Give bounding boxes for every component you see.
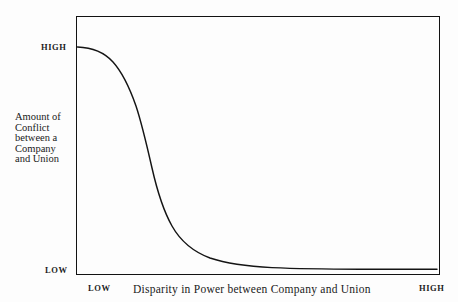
plot-frame [76, 16, 440, 275]
x-axis-title: Disparity in Power between Company and U… [133, 283, 371, 295]
y-axis-tick-low: LOW [45, 265, 67, 275]
y-axis-tick-high: HIGH [41, 42, 66, 52]
x-axis-tick-high: HIGH [419, 283, 444, 293]
y-axis-title-line-5: and Union [15, 154, 75, 165]
y-axis-title-line-1: Amount of [15, 112, 75, 123]
y-axis-title: Amount of Conflict between a Company and… [15, 112, 75, 165]
conflict-power-figure: HIGH LOW LOW HIGH Amount of Conflict bet… [0, 0, 458, 302]
x-axis-tick-low: LOW [88, 283, 110, 293]
